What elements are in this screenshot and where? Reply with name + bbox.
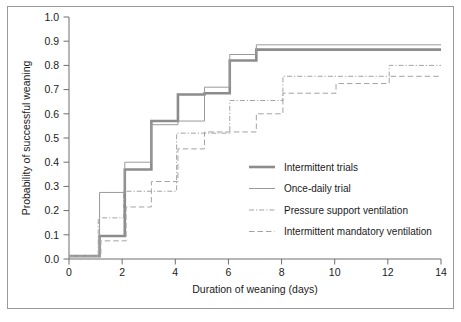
x-tick-label: 4 [172,266,178,278]
x-tick-label: 8 [279,266,285,278]
x-tick-label: 0 [66,266,72,278]
x-axis-group: 02468101214 Duration of weaning (days) [66,259,447,295]
data-series-group [69,45,441,256]
legend-label-2: Pressure support ventilation [284,205,408,216]
x-axis-ticks [69,259,441,265]
y-tick-label: 0.8 [44,59,59,71]
figure-container: 0.00.10.20.30.40.50.60.70.80.91.0 Probab… [0,0,461,322]
y-tick-label: 0.5 [44,132,59,144]
legend-label-3: Intermittent mandatory ventilation [284,226,432,237]
y-tick-label: 0.3 [44,180,59,192]
x-axis-title: Duration of weaning (days) [192,283,317,295]
legend-label-1: Once-daily trial [284,183,351,194]
y-tick-label: 0.7 [44,83,59,95]
legend-label-0: Intermittent trials [284,162,358,173]
y-tick-label: 0.0 [44,253,59,265]
y-axis-title: Probability of successful weaning [20,61,32,216]
y-axis-group: 0.00.10.20.30.40.50.60.70.80.91.0 Probab… [20,11,69,265]
chart-legend: Intermittent trialsOnce-daily trialPress… [249,162,432,238]
y-tick-label: 0.2 [44,204,59,216]
y-tick-label: 0.4 [44,156,59,168]
y-tick-label: 0.6 [44,108,59,120]
x-tick-label: 14 [435,266,447,278]
y-tick-label: 1.0 [44,11,59,23]
y-tick-label: 0.1 [44,229,59,241]
x-tick-label: 10 [329,266,341,278]
chart-plot: 0.00.10.20.30.40.50.60.70.80.91.0 Probab… [0,0,461,322]
y-tick-label: 0.9 [44,35,59,47]
x-tick-label: 2 [119,266,125,278]
x-axis-tick-labels: 02468101214 [66,266,447,278]
y-axis-ticks [64,17,70,259]
x-tick-label: 6 [226,266,232,278]
x-tick-label: 12 [382,266,394,278]
y-axis-tick-labels: 0.00.10.20.30.40.50.60.70.80.91.0 [44,11,59,265]
